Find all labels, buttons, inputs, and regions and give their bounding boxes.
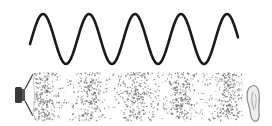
speaker-icon [15,74,35,116]
sound-wave-diagram [0,0,272,126]
air-particles [34,72,243,121]
sine-wave [30,14,238,64]
ear-icon [247,85,259,121]
diagram-canvas [0,0,272,126]
